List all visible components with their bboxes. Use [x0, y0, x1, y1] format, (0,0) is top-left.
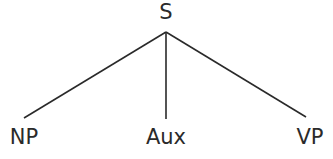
edge-s-vp	[166, 32, 306, 117]
node-vp: VP	[296, 127, 323, 148]
node-root-s: S	[159, 2, 172, 23]
node-aux: Aux	[146, 127, 186, 148]
edge-s-np	[24, 32, 166, 118]
node-np: NP	[10, 127, 38, 148]
